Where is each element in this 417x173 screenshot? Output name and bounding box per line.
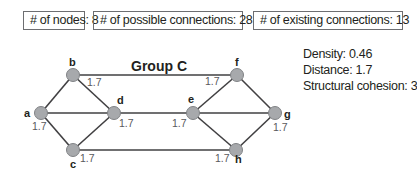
node-e-label: e — [188, 93, 194, 105]
edges — [41, 75, 275, 150]
cohesion-stat: Structural cohesion: 3 — [303, 78, 417, 94]
node-e-value: 1.7 — [172, 117, 187, 129]
node-h-value: 1.7 — [215, 152, 230, 164]
node-a — [35, 107, 48, 120]
node-d-label: d — [117, 94, 124, 106]
node-b-value: 1.7 — [87, 76, 102, 88]
node-a-value: 1.7 — [32, 120, 47, 132]
node-g-label: g — [284, 108, 291, 120]
stats-panel: Density: 0.46 Distance: 1.7 Structural c… — [303, 46, 417, 94]
node-c-label: c — [70, 158, 76, 170]
node-e — [187, 107, 200, 120]
edge-f-g — [237, 75, 275, 113]
edge-a-b — [41, 75, 73, 113]
node-a-label: a — [24, 107, 31, 119]
edge-e-h — [193, 113, 236, 150]
node-b-label: b — [69, 56, 76, 68]
density-stat: Density: 0.46 — [303, 46, 417, 62]
distance-stat: Distance: 1.7 — [303, 62, 417, 78]
node-b — [67, 69, 80, 82]
node-d-value: 1.7 — [119, 117, 134, 129]
node-g-value: 1.7 — [273, 121, 288, 133]
node-c-value: 1.7 — [80, 152, 95, 164]
diagram-title: Group C — [131, 58, 187, 74]
node-f-value: 1.7 — [205, 75, 220, 87]
node-f-label: f — [235, 56, 239, 68]
edge-c-d — [73, 113, 114, 150]
node-h-label: h — [235, 153, 242, 165]
node-c — [67, 144, 80, 157]
edge-h-g — [236, 113, 275, 150]
node-f — [231, 69, 244, 82]
node-g — [269, 107, 282, 120]
